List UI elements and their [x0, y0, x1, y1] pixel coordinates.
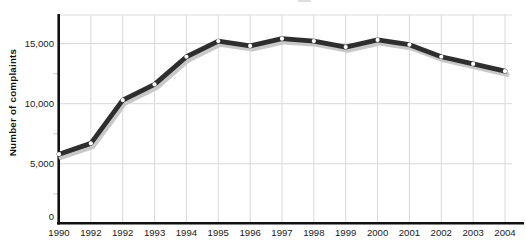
x-tick-label-6: 1996 — [239, 227, 260, 238]
x-tick-label-0: 1990 — [48, 227, 69, 238]
complaints-line-chart: Number of complaints 05,00010,00015,0001… — [0, 0, 526, 243]
data-point-14 — [503, 69, 507, 73]
data-point-7 — [280, 37, 284, 41]
x-tick-label-9: 1999 — [335, 227, 356, 238]
x-tick-label-7: 1997 — [271, 227, 292, 238]
data-point-11 — [407, 43, 411, 47]
data-point-8 — [312, 39, 316, 43]
data-point-1 — [89, 141, 93, 145]
data-point-9 — [344, 45, 348, 49]
x-tick-label-5: 1995 — [208, 227, 229, 238]
data-point-4 — [184, 55, 188, 59]
y-tick-label-10000: 10,000 — [25, 98, 54, 109]
data-point-0 — [57, 152, 61, 156]
y-tick-label-0: 0 — [49, 211, 54, 222]
data-point-2 — [121, 98, 125, 102]
data-point-13 — [471, 62, 475, 66]
data-point-5 — [216, 39, 220, 43]
data-point-10 — [375, 38, 379, 42]
plot-area: 05,00010,00015,0001990199219921993199419… — [0, 0, 526, 243]
data-point-3 — [152, 82, 156, 86]
x-tick-label-3: 1993 — [144, 227, 165, 238]
x-tick-label-2: 1992 — [112, 227, 133, 238]
x-tick-label-14: 2004 — [494, 227, 516, 238]
x-tick-label-4: 1994 — [176, 227, 198, 238]
x-tick-label-1: 1992 — [80, 227, 101, 238]
data-point-12 — [439, 55, 443, 59]
x-tick-label-8: 1998 — [303, 227, 324, 238]
x-tick-label-11: 2001 — [399, 227, 420, 238]
x-tick-label-10: 2000 — [367, 227, 388, 238]
x-tick-label-13: 2003 — [462, 227, 483, 238]
y-tick-label-15000: 15,000 — [25, 38, 54, 49]
data-point-6 — [248, 44, 252, 48]
x-tick-label-12: 2002 — [431, 227, 452, 238]
y-tick-label-5000: 5,000 — [30, 158, 54, 169]
